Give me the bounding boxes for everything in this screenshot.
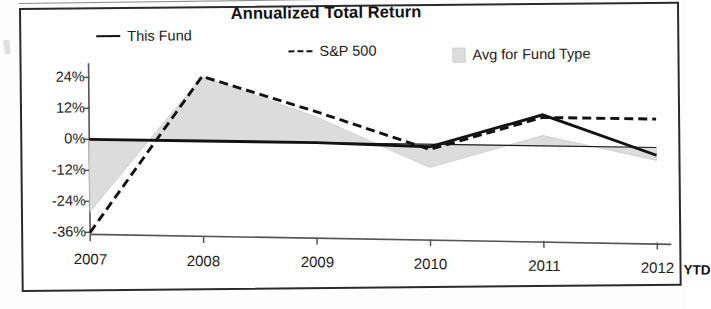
chart-plot-area [0, 0, 690, 309]
axis-layer [83, 58, 672, 255]
series-line-sp500 [89, 72, 657, 232]
chart-content-group: Annualized Total Return This Fund S&P 50… [0, 0, 690, 309]
